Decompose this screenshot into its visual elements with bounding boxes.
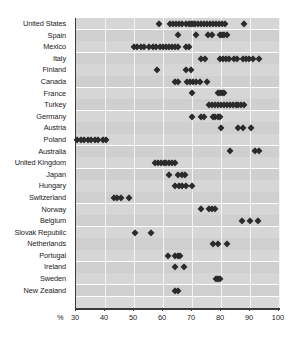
x-axis-tick-label: 100 bbox=[272, 313, 284, 322]
category-label: Portugal bbox=[0, 250, 70, 262]
row-band bbox=[76, 64, 279, 76]
category-label: Norway bbox=[0, 204, 70, 216]
category-label: Netherlands bbox=[0, 238, 70, 250]
row-band bbox=[76, 273, 279, 285]
category-label: United Kingdom bbox=[0, 157, 70, 169]
category-label: Hungary bbox=[0, 180, 70, 192]
row-band bbox=[76, 227, 279, 239]
x-axis-tick-label: 30 bbox=[71, 313, 79, 322]
row-band bbox=[76, 204, 279, 216]
category-label: Poland bbox=[0, 134, 70, 146]
row-band bbox=[76, 238, 279, 250]
plot-area bbox=[75, 18, 279, 308]
x-axis-tick-label: 50 bbox=[129, 313, 137, 322]
x-axis-tick bbox=[278, 308, 279, 311]
x-axis-tick-label: 70 bbox=[187, 313, 195, 322]
category-label: Finland bbox=[0, 64, 70, 76]
category-label: France bbox=[0, 88, 70, 100]
x-axis-tick bbox=[220, 308, 221, 311]
x-axis-tick bbox=[104, 308, 105, 311]
row-band bbox=[76, 99, 279, 111]
x-gridline bbox=[250, 18, 251, 308]
x-axis-unit-label: % bbox=[57, 313, 64, 322]
row-band bbox=[76, 146, 279, 158]
x-gridline bbox=[134, 18, 135, 308]
category-label: Canada bbox=[0, 76, 70, 88]
category-label: Australia bbox=[0, 146, 70, 158]
category-label-column: United StatesSpainMexicoItalyFinlandCana… bbox=[0, 18, 70, 296]
category-label: United States bbox=[0, 18, 70, 30]
x-gridline bbox=[192, 18, 193, 308]
category-label: Belgium bbox=[0, 215, 70, 227]
category-label: New Zealand bbox=[0, 285, 70, 297]
x-axis-tick-label: 80 bbox=[216, 313, 224, 322]
x-axis-tick bbox=[191, 308, 192, 311]
category-label: Spain bbox=[0, 30, 70, 42]
x-gridline bbox=[279, 18, 280, 308]
category-label: Ireland bbox=[0, 261, 70, 273]
x-axis-tick-label: 60 bbox=[158, 313, 166, 322]
dot-plot-chart: United StatesSpainMexicoItalyFinlandCana… bbox=[0, 0, 295, 360]
x-axis-tick bbox=[162, 308, 163, 311]
category-label: Switzerland bbox=[0, 192, 70, 204]
x-gridline bbox=[105, 18, 106, 308]
category-label: Italy bbox=[0, 53, 70, 65]
row-band bbox=[76, 88, 279, 100]
category-label: Mexico bbox=[0, 41, 70, 53]
x-axis-tick bbox=[249, 308, 250, 311]
category-label: Germany bbox=[0, 111, 70, 123]
row-separator bbox=[76, 296, 279, 297]
x-axis-tick bbox=[75, 308, 76, 311]
category-label: Austria bbox=[0, 122, 70, 134]
category-label: Turkey bbox=[0, 99, 70, 111]
x-axis-tick-label: 90 bbox=[245, 313, 253, 322]
x-axis-tick-label: 40 bbox=[100, 313, 108, 322]
row-band bbox=[76, 111, 279, 123]
category-label: Japan bbox=[0, 169, 70, 181]
category-label: Sweden bbox=[0, 273, 70, 285]
category-label: Slovak Republic bbox=[0, 227, 70, 239]
row-band bbox=[76, 192, 279, 204]
x-axis-tick bbox=[133, 308, 134, 311]
